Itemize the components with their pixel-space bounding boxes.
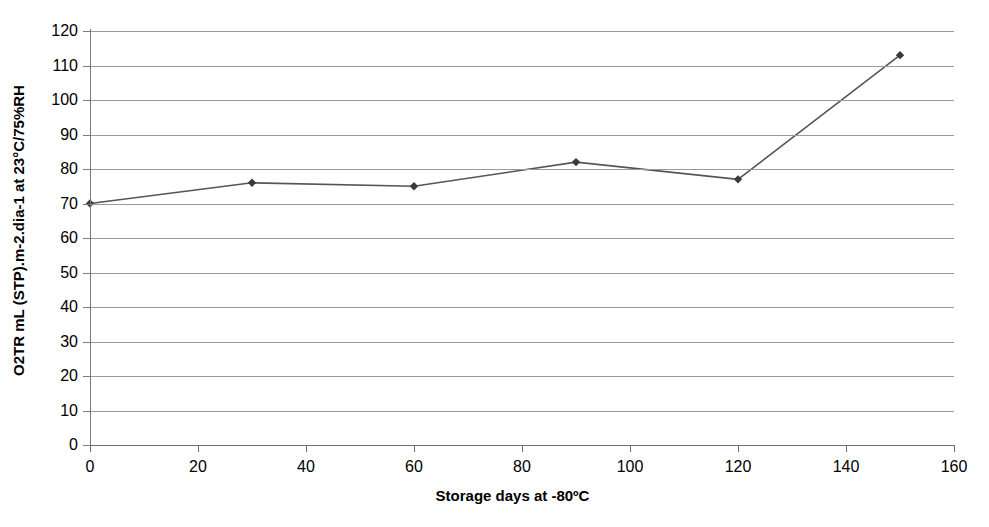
x-tick-mark-160	[954, 445, 955, 452]
y-tick-mark-100	[83, 100, 90, 101]
series-line	[90, 55, 900, 203]
x-tick-label-20: 20	[189, 458, 207, 476]
data-point-marker	[572, 158, 580, 166]
x-tick-label-120: 120	[725, 458, 752, 476]
data-point-marker	[248, 179, 256, 187]
x-tick-mark-100	[630, 445, 631, 452]
x-tick-mark-20	[198, 445, 199, 452]
gridline-70	[90, 204, 954, 205]
line-chart: O2TR mL (STP).m-2.dia-1 at 23°C/75%RH 01…	[0, 0, 989, 527]
y-tick-mark-90	[83, 135, 90, 136]
x-tick-label-40: 40	[297, 458, 315, 476]
gridline-50	[90, 273, 954, 274]
y-tick-mark-0	[83, 445, 90, 446]
y-tick-mark-110	[83, 66, 90, 67]
y-tick-mark-10	[83, 411, 90, 412]
gridline-120	[90, 31, 954, 32]
y-tick-mark-60	[83, 238, 90, 239]
x-tick-label-60: 60	[405, 458, 423, 476]
y-tick-mark-50	[83, 273, 90, 274]
y-tick-label-60: 60	[60, 229, 78, 247]
y-axis-line	[90, 29, 91, 447]
y-tick-label-100: 100	[51, 91, 78, 109]
y-tick-mark-120	[83, 31, 90, 32]
gridline-100	[90, 100, 954, 101]
x-axis-title: Storage days at -80ºC	[0, 487, 989, 504]
x-tick-label-0: 0	[86, 458, 95, 476]
x-tick-mark-60	[414, 445, 415, 452]
x-tick-mark-40	[306, 445, 307, 452]
y-tick-mark-40	[83, 307, 90, 308]
y-axis-title: O2TR mL (STP).m-2.dia-1 at 23°C/75%RH	[0, 0, 36, 460]
data-point-marker	[410, 182, 418, 190]
gridline-30	[90, 342, 954, 343]
x-axis-tick-labels: 020406080100120140160	[0, 458, 989, 482]
x-tick-label-140: 140	[833, 458, 860, 476]
gridline-20	[90, 376, 954, 377]
y-tick-label-20: 20	[60, 367, 78, 385]
x-tick-label-80: 80	[513, 458, 531, 476]
gridline-110	[90, 66, 954, 67]
y-tick-mark-30	[83, 342, 90, 343]
x-tick-mark-80	[522, 445, 523, 452]
gridline-40	[90, 307, 954, 308]
plot-area	[90, 31, 954, 445]
gridline-80	[90, 169, 954, 170]
y-tick-mark-20	[83, 376, 90, 377]
y-tick-label-110: 110	[52, 57, 78, 75]
x-tick-label-100: 100	[617, 458, 644, 476]
y-tick-mark-70	[83, 204, 90, 205]
x-tick-mark-140	[846, 445, 847, 452]
y-axis-tick-labels: 0102030405060708090100110120	[34, 0, 84, 460]
y-tick-label-30: 30	[60, 333, 78, 351]
y-tick-label-70: 70	[60, 195, 78, 213]
gridline-60	[90, 238, 954, 239]
gridline-90	[90, 135, 954, 136]
x-tick-mark-0	[90, 445, 91, 452]
y-tick-label-10: 10	[60, 402, 78, 420]
x-tick-label-160: 160	[941, 458, 968, 476]
x-axis-title-text: Storage days at -80ºC	[436, 487, 590, 504]
y-tick-mark-80	[83, 169, 90, 170]
y-tick-label-40: 40	[60, 298, 78, 316]
y-tick-label-50: 50	[60, 264, 78, 282]
y-tick-label-120: 120	[51, 22, 78, 40]
y-tick-label-80: 80	[60, 160, 78, 178]
gridline-10	[90, 411, 954, 412]
y-tick-label-90: 90	[60, 126, 78, 144]
x-tick-mark-120	[738, 445, 739, 452]
y-axis-title-text: O2TR mL (STP).m-2.dia-1 at 23°C/75%RH	[11, 85, 26, 376]
y-tick-label-0: 0	[69, 436, 78, 454]
